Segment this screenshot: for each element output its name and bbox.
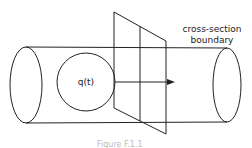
pipe-diagram [0,0,252,148]
pipe-right-end [213,48,241,122]
flow-label: q(t) [72,77,100,87]
boundary-label-line1: cross-section [172,24,252,34]
pipe-bottom-edge [26,122,227,123]
pipe-top-edge [26,47,227,48]
pipe-left-end [10,47,42,123]
flow-arrow-head-icon [167,79,175,85]
figure-caption: Figure F.1.1 [97,140,143,148]
boundary-label-line2: boundary [172,35,252,45]
